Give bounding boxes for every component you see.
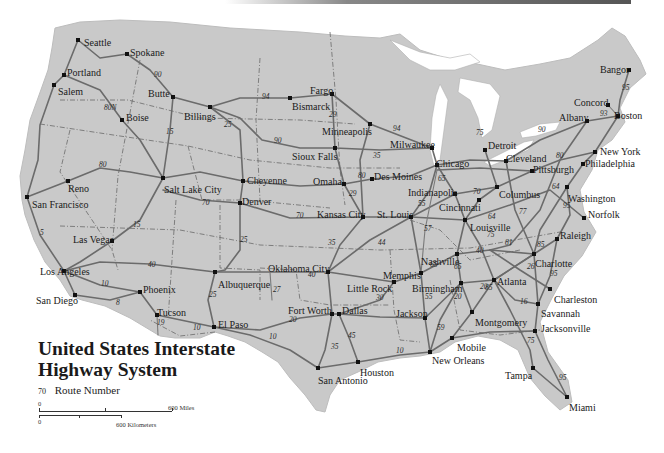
route-number-label: 44: [378, 238, 386, 247]
city-label: Boise: [126, 112, 149, 123]
route-number-label: 35: [327, 238, 336, 247]
scale-km-bar: [39, 415, 121, 416]
city-marker-icon: [333, 146, 337, 150]
city-label: Memphis: [383, 270, 421, 281]
legend-route-sample: 70: [38, 387, 46, 396]
city-label: Tucson: [157, 307, 186, 318]
route-number-label: 30: [375, 293, 384, 302]
city-label: San Francisco: [32, 199, 88, 210]
city-label: Columbus: [499, 189, 540, 200]
city-label: Philadelphia: [585, 158, 636, 169]
route-number-label: 26: [527, 262, 535, 271]
route-number-label: 94: [393, 124, 401, 133]
city-marker-icon: [533, 329, 537, 333]
city-label: New Orleans: [432, 355, 485, 366]
city-label: New York: [600, 146, 641, 157]
city-marker-icon: [337, 312, 341, 316]
map-title-line2: Highway System: [38, 359, 235, 380]
route-number-label: 75: [527, 336, 535, 345]
route-number-label: 25: [224, 120, 232, 129]
city-marker-icon: [470, 310, 474, 314]
route-number-label: 10: [193, 323, 201, 332]
city-marker-icon: [483, 148, 487, 152]
route-number-label: 15: [166, 127, 174, 136]
scale-km-zero: 0: [38, 418, 41, 425]
city-marker-icon: [62, 73, 66, 77]
city-marker-icon: [316, 366, 320, 370]
city-label: Salt Lake City: [164, 184, 222, 195]
city-marker-icon: [288, 96, 292, 100]
city-label: Norfolk: [588, 209, 620, 220]
route-number-label: 85: [537, 240, 545, 249]
city-label: Des Moines: [374, 171, 422, 182]
route-number-label: 80: [556, 151, 564, 160]
route-number-label: 20: [454, 292, 462, 301]
city-label: Raleigh: [560, 230, 591, 241]
route-number-label: 19: [157, 318, 165, 327]
city-label: Tampa: [505, 370, 533, 381]
city-label: Cleveland: [506, 153, 547, 164]
city-label: Detroit: [488, 140, 517, 151]
route-number-label: 10: [101, 279, 109, 288]
city-marker-icon: [536, 302, 540, 306]
route-number-label: 29: [329, 110, 337, 119]
city-label: Houston: [360, 367, 394, 378]
city-label: Cheyenne: [247, 175, 288, 186]
route-number-label: 94: [262, 92, 270, 101]
city-marker-icon: [392, 280, 396, 284]
route-number-label: 75: [476, 128, 484, 137]
city-marker-icon: [450, 336, 454, 340]
route-number-label: 70: [473, 187, 481, 196]
city-label: San Diego: [36, 295, 78, 306]
city-label: Miami: [569, 402, 596, 413]
route-number-label: 45: [348, 331, 356, 340]
route-number-label: 80: [358, 171, 366, 180]
city-label: Salem: [58, 86, 83, 97]
city-marker-icon: [342, 182, 346, 186]
route-number-label: 59: [437, 323, 445, 332]
city-marker-icon: [52, 83, 56, 87]
city-label: Jacksonville: [541, 323, 591, 334]
route-number-label: 65: [438, 174, 446, 183]
scale-tick: [79, 415, 80, 418]
route-number-label: 20: [480, 282, 488, 291]
route-number-label: 25: [240, 235, 248, 244]
route-number-label: 80N: [104, 103, 118, 112]
route-number-label: 10: [396, 346, 404, 355]
scale-km-label: 600 Kilometers: [116, 421, 156, 428]
route-number-label: 81: [505, 238, 513, 247]
route-number-label: 95: [550, 269, 558, 278]
city-label: Reno: [68, 183, 89, 194]
route-number-label: 65: [454, 262, 462, 271]
city-label: Fargo: [310, 85, 333, 96]
city-marker-icon: [241, 179, 245, 183]
city-marker-icon: [25, 195, 29, 199]
route-number-label: 64: [488, 212, 496, 221]
route-number-label: 10: [269, 332, 277, 341]
route-number-label: 35: [330, 342, 339, 351]
city-label: Chicago: [436, 158, 469, 169]
city-label: Denver: [242, 196, 272, 207]
city-label: Dallas: [342, 305, 368, 316]
route-number-label: 77: [519, 207, 527, 216]
legend-route-label: Route Number: [55, 384, 120, 396]
route-number-label: 55: [418, 199, 426, 208]
city-label: Seattle: [84, 37, 112, 48]
scale-miles-zero: 0: [38, 400, 41, 407]
city-label: Kansas City: [317, 209, 366, 220]
city-marker-icon: [161, 176, 165, 180]
city-marker-icon: [548, 287, 552, 291]
route-number-label: 27: [273, 285, 281, 294]
city-label: Bismarck: [292, 101, 330, 112]
city-label: Savannah: [541, 308, 580, 319]
city-label: Bangor: [600, 64, 630, 75]
route-number-label: 57: [424, 224, 432, 233]
city-label: Portland: [67, 67, 101, 78]
map-title-block: United States Interstate Highway System: [38, 338, 235, 380]
city-label: Washington: [568, 193, 616, 204]
route-number-label: 90: [274, 136, 282, 145]
city-label: Los Angeles: [40, 266, 90, 277]
city-label: Billings: [184, 111, 216, 122]
city-label: Pittsburgh: [533, 164, 574, 175]
city-label: Atlanta: [497, 276, 527, 287]
